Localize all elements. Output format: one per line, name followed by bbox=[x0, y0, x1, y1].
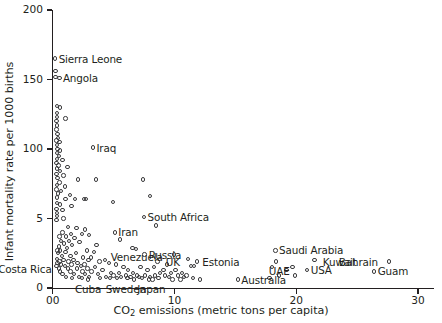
data-point bbox=[69, 262, 73, 266]
data-point bbox=[154, 223, 158, 227]
data-point bbox=[236, 277, 240, 281]
data-point bbox=[56, 163, 60, 167]
data-point bbox=[55, 115, 59, 119]
data-point bbox=[124, 273, 128, 277]
y-tick-label: 200 bbox=[3, 3, 43, 15]
x-tick-label: 10 bbox=[154, 294, 194, 306]
data-point bbox=[54, 264, 58, 268]
data-point bbox=[74, 251, 78, 255]
data-point bbox=[97, 259, 101, 263]
point-annotation: Iraq bbox=[96, 142, 116, 154]
data-point bbox=[189, 264, 193, 268]
x-axis-title: CO2 emissions (metric tons per capita) bbox=[0, 304, 442, 318]
y-axis-spine bbox=[52, 10, 53, 289]
x-axis-title-main: CO bbox=[113, 304, 130, 317]
data-point bbox=[85, 266, 89, 270]
data-point bbox=[61, 216, 65, 220]
data-point bbox=[111, 200, 115, 204]
data-point bbox=[305, 268, 309, 272]
x-tick-label: 30 bbox=[398, 294, 438, 306]
data-point bbox=[170, 277, 174, 281]
data-point bbox=[54, 127, 58, 131]
data-point bbox=[54, 218, 58, 222]
data-point bbox=[68, 254, 72, 258]
data-point bbox=[57, 180, 61, 184]
data-point bbox=[63, 116, 67, 120]
data-point bbox=[80, 232, 84, 236]
data-point bbox=[85, 248, 89, 252]
data-point bbox=[135, 273, 139, 277]
data-point bbox=[150, 277, 154, 281]
x-tick-label: 00 bbox=[33, 294, 73, 306]
data-point bbox=[55, 195, 59, 199]
data-point bbox=[91, 145, 95, 149]
data-point bbox=[72, 272, 76, 276]
data-point bbox=[63, 250, 67, 254]
data-point bbox=[176, 273, 180, 277]
data-point bbox=[68, 269, 72, 273]
data-point bbox=[111, 273, 115, 277]
data-point bbox=[57, 154, 61, 158]
data-point bbox=[60, 272, 64, 276]
data-point bbox=[70, 243, 74, 247]
data-point bbox=[73, 197, 77, 201]
data-point bbox=[126, 268, 130, 272]
data-point bbox=[59, 239, 63, 243]
data-point bbox=[87, 233, 91, 237]
data-point bbox=[153, 273, 157, 277]
data-point bbox=[60, 254, 64, 258]
data-point bbox=[184, 273, 188, 277]
data-point bbox=[53, 56, 57, 60]
data-point bbox=[83, 227, 87, 231]
data-point bbox=[55, 151, 59, 155]
data-point bbox=[94, 243, 98, 247]
point-annotation: Australia bbox=[241, 274, 286, 286]
data-point bbox=[64, 275, 68, 279]
data-point bbox=[140, 276, 144, 280]
point-annotation: Cuba bbox=[75, 283, 101, 295]
point-annotation: Sierra Leone bbox=[59, 53, 122, 65]
data-point bbox=[141, 177, 145, 181]
point-annotation: Estonia bbox=[202, 256, 239, 268]
data-point bbox=[56, 136, 60, 140]
data-point bbox=[108, 276, 112, 280]
data-point bbox=[92, 250, 96, 254]
data-point bbox=[56, 191, 60, 195]
data-point bbox=[103, 258, 107, 262]
data-point bbox=[53, 75, 57, 79]
data-point bbox=[55, 211, 59, 215]
data-point bbox=[132, 277, 136, 281]
data-point bbox=[195, 259, 199, 263]
data-point bbox=[60, 158, 64, 162]
data-point bbox=[100, 268, 104, 272]
point-annotation: South Africa bbox=[148, 211, 209, 223]
data-point bbox=[55, 248, 59, 252]
data-point bbox=[161, 268, 165, 272]
data-point bbox=[55, 257, 59, 261]
data-point bbox=[75, 261, 79, 265]
data-point bbox=[57, 259, 61, 263]
x-tick-label: 20 bbox=[276, 294, 316, 306]
data-point bbox=[55, 111, 59, 115]
data-point bbox=[86, 258, 90, 262]
data-point bbox=[192, 264, 196, 268]
data-point bbox=[66, 266, 70, 270]
scatter-chart-figure: Infant mortality rate per 1000 births CO… bbox=[0, 0, 442, 323]
point-annotation: UK bbox=[166, 256, 180, 268]
data-point bbox=[169, 271, 173, 275]
data-point bbox=[60, 230, 64, 234]
data-point bbox=[63, 197, 67, 201]
data-point bbox=[167, 275, 171, 279]
y-tick-label: 5 bbox=[3, 212, 43, 224]
data-point bbox=[104, 275, 108, 279]
data-point bbox=[76, 177, 80, 181]
data-point bbox=[274, 259, 278, 263]
data-point bbox=[130, 246, 134, 250]
data-point bbox=[62, 241, 66, 245]
data-point bbox=[119, 275, 123, 279]
data-point bbox=[54, 138, 58, 142]
data-point bbox=[148, 194, 152, 198]
data-point bbox=[57, 266, 61, 270]
data-point bbox=[57, 140, 61, 144]
data-point bbox=[61, 173, 65, 177]
